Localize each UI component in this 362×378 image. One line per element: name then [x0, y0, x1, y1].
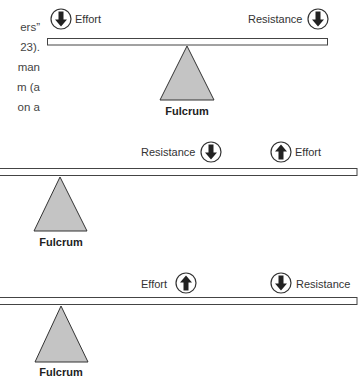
lever-3	[0, 298, 357, 363]
lever-1-fulcrum-label: Fulcrum	[165, 105, 208, 118]
lever-3-fulcrum-triangle	[35, 306, 88, 362]
lever-2-fulcrum-triangle	[34, 177, 87, 231]
lever-3-resistance-label: Resistance	[296, 277, 350, 291]
lever-2	[0, 169, 357, 232]
lever-2-beam	[0, 169, 357, 176]
arrow-up-circle-icon	[175, 272, 197, 294]
lever-2-resistance-label: Resistance	[141, 145, 195, 159]
lever-2-effort-label: Effort	[295, 145, 321, 159]
lever-3-effort-label: Effort	[141, 277, 167, 291]
arrow-up-circle-icon	[270, 141, 292, 163]
arrow-down-circle-icon	[50, 8, 72, 30]
lever-diagrams	[0, 0, 362, 378]
lever-2-fulcrum-label: Fulcrum	[39, 236, 82, 249]
lever-1-resistance-label: Resistance	[248, 12, 302, 26]
lever-1-beam	[48, 39, 328, 46]
lever-1-fulcrum-triangle	[160, 46, 214, 100]
arrow-down-circle-icon	[307, 8, 329, 30]
arrow-down-circle-icon	[200, 141, 222, 163]
lever-1-effort-label: Effort	[75, 12, 101, 26]
lever-3-fulcrum-label: Fulcrum	[39, 366, 82, 378]
lever-3-beam	[0, 298, 357, 305]
lever-1	[48, 39, 328, 101]
arrow-down-circle-icon	[270, 272, 292, 294]
